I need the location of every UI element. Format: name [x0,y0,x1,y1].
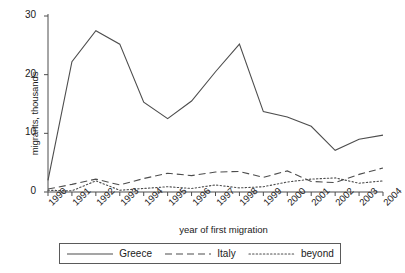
y-tick-label: 0 [14,185,36,196]
x-axis-label-text: year of first migration [137,224,268,235]
legend-label: Italy [217,248,235,259]
chart-figure: migrants, thousands 3020100 199019911992… [0,0,405,273]
chart-legend: GreeceItalybeyond [59,243,341,264]
plot-svg [44,12,385,196]
y-axis-tick-labels: 3020100 [8,0,36,210]
legend-item-greece[interactable]: Greece [66,248,152,259]
legend-swatch-dotted [248,249,296,259]
series-line-beyond [48,178,383,191]
legend-label: Greece [119,248,152,259]
y-tick-label: 20 [14,68,36,79]
series-line-italy [48,168,383,189]
plot-area [44,12,385,196]
y-tick-label: 10 [14,126,36,137]
y-tick-label: 30 [14,9,36,20]
legend-item-beyond[interactable]: beyond [248,248,334,259]
legend-item-italy[interactable]: Italy [164,248,235,259]
legend-swatch-dashed [164,249,212,259]
series-line-greece [48,31,383,181]
legend-swatch-solid [66,249,114,259]
x-axis-label: year of first migration [0,224,405,235]
legend-label: beyond [301,248,334,259]
